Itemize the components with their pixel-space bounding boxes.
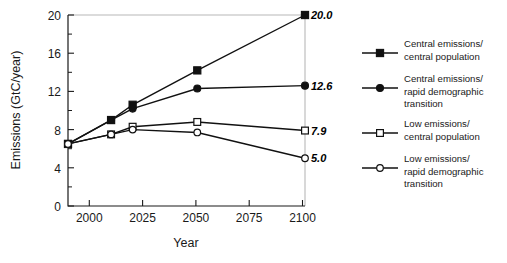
legend-label: transition	[404, 98, 443, 109]
data-point-marker	[194, 119, 201, 126]
y-tick-label: 0	[54, 200, 61, 214]
legend-label: central population	[404, 51, 480, 62]
data-point-marker	[301, 11, 308, 18]
x-tick-label: 2050	[183, 211, 210, 225]
data-point-marker	[194, 67, 201, 74]
legend-label: Central emissions/	[404, 38, 483, 49]
legend-label: Low emissions/	[404, 118, 470, 129]
data-point-marker	[194, 85, 201, 92]
legend-marker-open-circle-icon	[377, 165, 384, 172]
x-tick-label: 2100	[289, 211, 316, 225]
y-tick-label: 8	[54, 124, 61, 138]
data-point-marker	[129, 105, 136, 112]
legend-marker-open-square-icon	[377, 130, 384, 137]
data-point-marker	[302, 82, 309, 89]
legend-label: Central emissions/	[404, 73, 483, 84]
data-point-marker	[108, 131, 115, 138]
y-tick-label: 4	[54, 162, 61, 176]
data-point-marker	[65, 141, 72, 148]
x-tick-label: 2025	[129, 211, 156, 225]
legend-marker-filled-square-icon	[376, 49, 383, 56]
legend-label: Low emissions/	[404, 153, 470, 164]
legend-label: rapid demographic	[404, 166, 484, 177]
data-point-marker	[302, 127, 309, 134]
legend-label: central population	[404, 131, 480, 142]
y-tick-label: 20	[48, 9, 62, 23]
y-tick-label: 16	[48, 47, 62, 61]
data-point-marker	[194, 129, 201, 136]
legend-marker-filled-circle-icon	[377, 85, 384, 92]
data-point-marker	[108, 117, 115, 124]
x-tick-label: 2000	[76, 211, 103, 225]
y-tick-label: 12	[48, 85, 62, 99]
legend-label: rapid demographic	[404, 86, 484, 97]
data-point-marker	[129, 126, 136, 133]
x-axis-title: Year	[173, 236, 198, 250]
series-end-label: 12.6	[311, 80, 333, 92]
data-point-marker	[302, 155, 309, 162]
chart-svg: 20 16 12 8 4 0 2000 2025 2050 2075 2100 …	[0, 0, 507, 263]
series-end-label: 7.9	[311, 125, 327, 137]
legend-label: transition	[404, 178, 443, 189]
series-end-label: 20.0	[310, 9, 333, 21]
y-axis-title: Emissions (GtC/year)	[9, 51, 23, 170]
emissions-line-chart: 20 16 12 8 4 0 2000 2025 2050 2075 2100 …	[0, 0, 507, 263]
x-tick-label: 2075	[236, 211, 263, 225]
series-end-label: 5.0	[311, 152, 327, 164]
